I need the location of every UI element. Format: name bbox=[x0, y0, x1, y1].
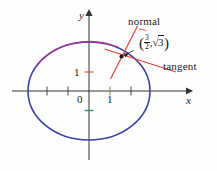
point-coordinate-label: (32,√3) bbox=[139, 34, 169, 51]
normal-label: normal bbox=[128, 16, 160, 27]
normal-leader-line bbox=[139, 29, 147, 31]
y-axis-arrowhead bbox=[85, 9, 92, 16]
y-axis-label: y bbox=[79, 10, 84, 21]
axes-group bbox=[12, 9, 193, 160]
x-axis-tick-label-1: 1 bbox=[107, 94, 113, 105]
tangent-label: tangent bbox=[163, 61, 197, 72]
ellipse-curve-highlight bbox=[36, 42, 118, 67]
math-figure: y x 0 1 1 normal tangent (32,√3) bbox=[0, 0, 217, 171]
y-axis-tick-label-1: 1 bbox=[74, 67, 80, 78]
x-axis-label: x bbox=[186, 95, 191, 106]
origin-label: 0 bbox=[77, 94, 83, 105]
graph-canvas bbox=[0, 0, 217, 171]
point-label-close-paren: ) bbox=[164, 36, 169, 51]
tangency-point-marker bbox=[119, 54, 123, 58]
point-label-radical: √3 bbox=[153, 36, 165, 48]
